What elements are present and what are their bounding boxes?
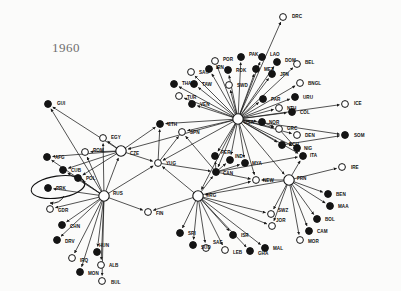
graph-node-nor[interactable]	[259, 119, 266, 126]
graph-node-sri[interactable]	[177, 230, 184, 237]
graph-node-per[interactable]	[212, 153, 219, 160]
graph-node-par[interactable]	[260, 96, 267, 103]
graph-edge	[67, 199, 100, 222]
graph-node-hun[interactable]	[94, 249, 101, 256]
graph-node-chn[interactable]	[59, 222, 66, 229]
graph-node-den[interactable]	[294, 132, 301, 139]
node-label-ven: VEN	[200, 102, 210, 107]
graph-node-ice[interactable]	[342, 101, 349, 108]
graph-node-rok[interactable]	[225, 67, 232, 74]
graph-node-ire[interactable]	[339, 164, 346, 171]
graph-node-afg[interactable]	[44, 154, 51, 161]
graph-node-grc[interactable]	[276, 126, 283, 133]
graph-node-eth[interactable]	[157, 121, 164, 128]
graph-node-ven[interactable]	[189, 101, 196, 108]
graph-node-irq[interactable]	[69, 255, 76, 262]
graph-node-jor[interactable]	[269, 223, 276, 230]
graph-node-dom[interactable]	[274, 59, 281, 66]
graph-node-sau[interactable]	[188, 69, 195, 76]
graph-node-maa[interactable]	[327, 203, 334, 210]
graph-node-uru[interactable]	[292, 94, 299, 101]
graph-node-som[interactable]	[342, 132, 349, 139]
graph-edge	[158, 130, 160, 160]
graph-edge	[212, 74, 236, 115]
node-label-gdr: GDR	[58, 208, 69, 213]
label-layer: DRCGUIPORPAKLAODOMBELSAUIRNROKMEXJPNTHAT…	[55, 14, 365, 285]
graph-edge	[219, 165, 239, 171]
node-label-bol: BOL	[325, 217, 335, 222]
graph-edge	[153, 198, 193, 211]
graph-node-drv[interactable]	[54, 237, 61, 244]
node-label-mex: MEX	[264, 67, 275, 72]
graph-edge	[199, 201, 205, 242]
node-label-leb: LEB	[233, 250, 243, 255]
graph-node-egy[interactable]	[100, 135, 107, 142]
node-label-rom: ROM	[93, 148, 104, 153]
graph-node-usa[interactable]	[233, 114, 243, 124]
node-label-ita: ITA	[310, 153, 318, 158]
node-label-ben: BEN	[336, 192, 346, 197]
graph-node-ind[interactable]	[227, 157, 234, 164]
graph-node-mex[interactable]	[253, 66, 260, 73]
graph-node-pol[interactable]	[75, 175, 82, 182]
graph-node-mon[interactable]	[77, 269, 84, 276]
graph-node-spn[interactable]	[179, 129, 186, 136]
graph-node-cam[interactable]	[306, 228, 313, 235]
graph-node-urg[interactable]	[193, 191, 203, 201]
graph-node-tha[interactable]	[171, 81, 178, 88]
graph-node-bol[interactable]	[314, 216, 321, 223]
graph-node-sud[interactable]	[190, 242, 197, 249]
node-label-urg: URG	[206, 193, 217, 198]
graph-edge	[219, 164, 226, 170]
graph-edge	[109, 198, 143, 210]
graph-node-fin[interactable]	[145, 209, 152, 216]
graph-node-swz[interactable]	[268, 211, 275, 218]
graph-node-tur[interactable]	[176, 93, 183, 100]
graph-node-leb[interactable]	[222, 247, 229, 254]
node-label-new: NEW	[263, 178, 274, 183]
graph-node-can[interactable]	[213, 169, 220, 176]
node-label-alb: ALB	[109, 263, 119, 268]
year-label: 1960	[52, 40, 80, 56]
node-label-nig: NIG	[304, 146, 313, 151]
graph-node-pak[interactable]	[238, 54, 245, 61]
graph-node-isr[interactable]	[230, 232, 237, 239]
graph-edge	[197, 106, 233, 118]
graph-edge	[274, 185, 287, 209]
node-label-per: PER	[221, 150, 231, 155]
node-label-dom: DOM	[285, 58, 296, 63]
node-label-maa: MAA	[338, 204, 349, 209]
graph-node-gdr[interactable]	[47, 206, 54, 213]
graph-node-rom[interactable]	[82, 149, 89, 156]
node-label-ecu: ECU	[289, 142, 299, 147]
node-label-irn: IRN	[216, 65, 225, 70]
graph-node-lao[interactable]	[259, 54, 266, 61]
node-label-taw: TAW	[202, 82, 213, 87]
node-label-pol: POL	[86, 176, 96, 181]
graph-node-ecu[interactable]	[279, 142, 286, 149]
graph-node-cze[interactable]	[116, 146, 126, 156]
graph-node-rus[interactable]	[99, 191, 109, 201]
graph-node-taw[interactable]	[191, 81, 198, 88]
graph-node-swd[interactable]	[226, 82, 233, 89]
graph-node-por[interactable]	[212, 58, 219, 65]
graph-node-alb[interactable]	[98, 262, 105, 269]
graph-node-yug[interactable]	[155, 160, 162, 167]
graph-node-gui[interactable]	[45, 101, 52, 108]
graph-node-cub[interactable]	[60, 167, 67, 174]
graph-node-bul[interactable]	[99, 278, 106, 285]
graph-node-nth[interactable]	[276, 105, 283, 112]
graph-node-bngl[interactable]	[297, 80, 304, 87]
graph-node-new[interactable]	[253, 177, 260, 184]
graph-node-ita[interactable]	[300, 153, 307, 160]
graph-node-frn[interactable]	[284, 175, 294, 185]
graph-node-drc[interactable]	[280, 14, 287, 21]
graph-node-prk[interactable]	[45, 185, 52, 192]
node-label-swz: SWZ	[278, 208, 288, 213]
graph-edge	[239, 124, 244, 157]
graph-node-gha[interactable]	[247, 248, 254, 255]
graph-node-ben[interactable]	[325, 191, 332, 198]
graph-node-mya[interactable]	[242, 160, 249, 167]
graph-node-mor[interactable]	[297, 237, 304, 244]
node-label-yug: YUG	[166, 161, 176, 166]
